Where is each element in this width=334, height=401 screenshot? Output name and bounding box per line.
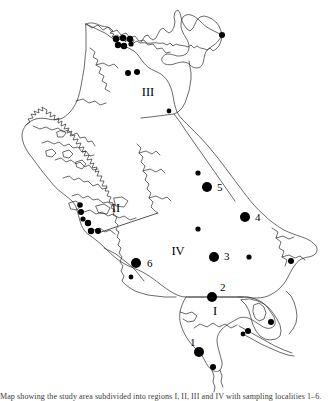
figure-caption: Map showing the study area subdivided in… — [0, 392, 334, 401]
region-label-i: I — [213, 304, 217, 318]
numbered-site-label-6: 6 — [147, 257, 153, 269]
sampling-dot — [115, 42, 121, 48]
southeast-island-path — [253, 303, 266, 321]
south-inner-detail-2 — [212, 370, 215, 392]
sampling-dot — [246, 254, 251, 259]
sampling-dot — [120, 35, 126, 41]
west-fjord-coast-path — [26, 107, 176, 297]
far-southeast-coast — [286, 291, 297, 334]
sampling-dot — [210, 364, 216, 370]
south-peninsula-path — [180, 297, 276, 372]
sampling-dot — [78, 209, 84, 215]
sampling-dot — [113, 36, 119, 42]
sampling-dot — [85, 220, 91, 226]
island-fragment-2 — [46, 149, 56, 157]
sampling-dot — [219, 32, 225, 38]
sampling-dot — [288, 258, 294, 264]
boundary-line-ii-iv — [98, 213, 158, 233]
south-west-notch — [180, 312, 197, 322]
region-label-iv: IV — [171, 244, 184, 258]
numbered-site-label-2: 2 — [220, 281, 226, 293]
numbered-sites-group: 123456 — [131, 181, 261, 357]
numbered-site-dot-4[interactable] — [240, 212, 250, 222]
sampling-dot — [268, 319, 274, 325]
numbered-site-dot-5[interactable] — [202, 182, 212, 192]
sampling-dot — [241, 332, 246, 337]
sampling-dot — [195, 170, 200, 175]
numbered-site-dot-3[interactable] — [209, 252, 219, 262]
sampling-dot — [129, 275, 134, 280]
sampling-dot — [80, 216, 85, 221]
numbered-site-dot-6[interactable] — [131, 258, 141, 268]
numbered-site-label-1: 1 — [190, 336, 196, 348]
north-inlet-branch-2 — [76, 99, 106, 105]
south-inner-detail-1 — [194, 323, 237, 328]
northeast-peninsula-path — [162, 15, 222, 68]
east-coast-inlet-2 — [276, 236, 294, 239]
coastline-group — [22, 10, 317, 392]
sampling-dot — [77, 202, 83, 208]
region-label-iii: III — [142, 85, 155, 99]
numbered-site-label-5: 5 — [217, 181, 223, 193]
sampling-dot — [127, 36, 133, 42]
numbered-site-label-4: 4 — [255, 211, 261, 223]
central-fjord-branch-1 — [139, 151, 160, 155]
north-inlet-detail — [90, 48, 110, 92]
sampling-dot — [167, 109, 172, 114]
sampling-dot — [245, 328, 251, 334]
sampling-dot — [121, 43, 127, 49]
central-fjord-branch-3 — [149, 196, 171, 201]
east-coast-inlet-1 — [272, 228, 287, 266]
sampling-dot — [128, 41, 133, 46]
fjord-inlet-detail-6 — [84, 210, 136, 220]
sampling-dot — [95, 228, 101, 234]
map-canvas: IIIIIIIV 123456 — [0, 0, 334, 401]
fjord-inlet-detail-2 — [42, 141, 94, 156]
sampling-dot — [88, 228, 94, 234]
sampling-dot — [134, 69, 140, 75]
region-label-ii: II — [112, 201, 120, 215]
map-figure: IIIIIIIV 123456 Map showing the study ar… — [0, 0, 334, 401]
central-fjord-path — [137, 144, 158, 213]
fjord-inlet-detail-4 — [63, 176, 107, 189]
sampling-dot — [195, 226, 200, 231]
numbered-site-dot-1[interactable] — [194, 347, 204, 357]
numbered-site-label-3: 3 — [224, 250, 230, 262]
south-inner-detail-3 — [220, 370, 223, 387]
numbered-site-dot-2[interactable] — [207, 292, 217, 302]
sampling-dot — [125, 70, 131, 76]
central-fjord-branch-2 — [143, 169, 165, 173]
island-fragment-4 — [76, 160, 86, 169]
southeast-spit-path-2 — [243, 334, 294, 356]
island-fragment-3 — [63, 150, 73, 158]
